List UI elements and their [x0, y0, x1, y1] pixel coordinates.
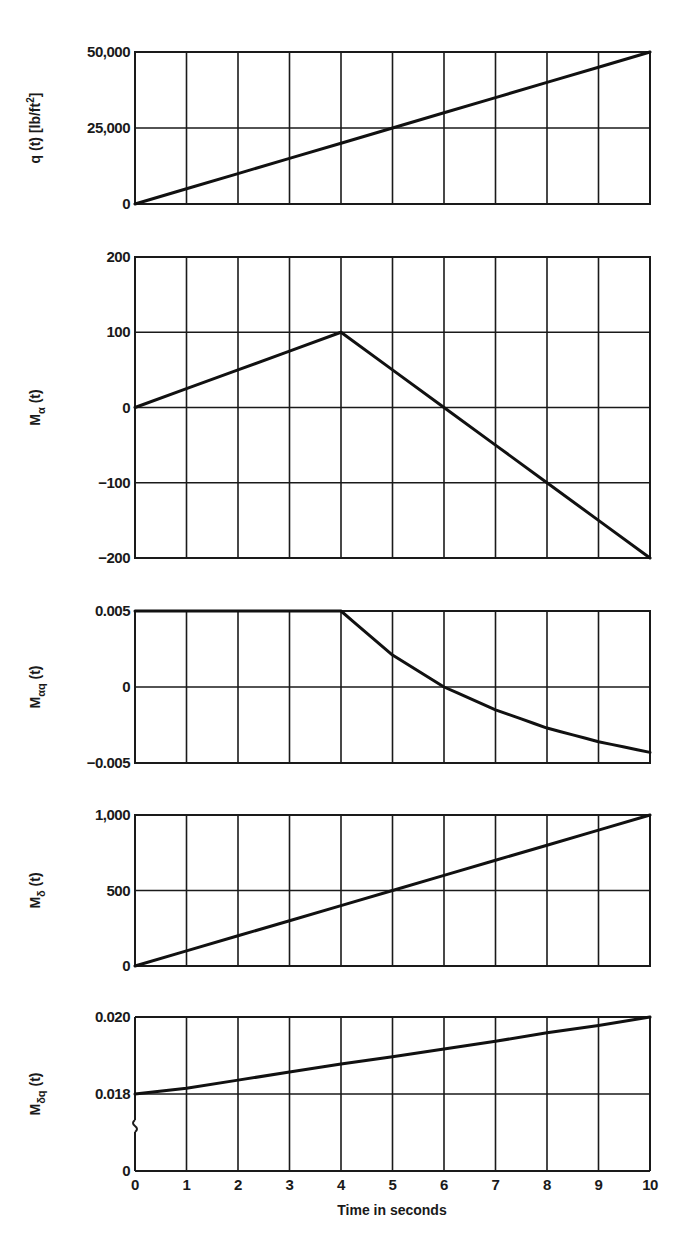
y-tick-label: 25,000	[87, 119, 130, 136]
cropped-caption	[60, 1244, 620, 1253]
panel-M_delta: 1,0005000Mδ (t)	[27, 806, 650, 974]
y-tick-label: 500	[106, 882, 130, 899]
x-tick-label: 6	[440, 1176, 448, 1193]
figure: 50,00025,0000q (t) [lb/ft2]2001000−100−2…	[0, 0, 690, 1253]
y-tick-label: 0.018	[95, 1085, 130, 1102]
x-tick-label: 1	[183, 1176, 191, 1193]
x-tick-label: 8	[543, 1176, 551, 1193]
y-tick-label: 1,000	[95, 806, 130, 823]
chart-canvas: 50,00025,0000q (t) [lb/ft2]2001000−100−2…	[0, 0, 690, 1253]
y-tick-label: 0	[122, 195, 130, 212]
y-axis-label: Mδ (t)	[27, 872, 47, 908]
x-tick-label: 10	[642, 1176, 658, 1193]
x-tick-label: 7	[492, 1176, 500, 1193]
x-tick-label: 3	[286, 1176, 294, 1193]
panel-M_alpha: 2001000−100−200Mα (t)	[27, 248, 650, 566]
y-tick-label: 0	[122, 957, 130, 974]
panel-M_delta_q: 0.0200.0180Mδq (t)	[27, 1008, 650, 1179]
x-tick-label: 2	[234, 1176, 242, 1193]
y-tick-label: −100	[98, 474, 130, 491]
x-axis-label: Time in seconds	[337, 1202, 447, 1218]
y-tick-label: 0.020	[95, 1008, 130, 1025]
panel-q: 50,00025,0000q (t) [lb/ft2]	[25, 43, 650, 212]
x-tick-label: 5	[389, 1176, 397, 1193]
y-tick-label: 0	[122, 1162, 130, 1179]
y-axis-label: Mα (t)	[27, 389, 47, 425]
axis-break-icon	[133, 1120, 137, 1132]
y-axis-label: Mαq (t)	[27, 665, 47, 708]
y-axis-label: q (t) [lb/ft2]	[25, 93, 43, 164]
y-tick-label: −200	[98, 549, 130, 566]
y-tick-label: 100	[106, 323, 130, 340]
y-tick-label: −0.005	[87, 754, 130, 771]
y-tick-label: 0.005	[95, 602, 130, 619]
y-tick-label: 50,000	[87, 43, 130, 60]
y-tick-label: 200	[106, 248, 130, 265]
y-tick-label: 0	[122, 399, 130, 416]
x-tick-label: 0	[131, 1176, 139, 1193]
x-tick-label: 4	[337, 1176, 346, 1193]
panel-M_alpha_q: 0.0050−0.005Mαq (t)	[27, 602, 650, 771]
y-axis-label: Mδq (t)	[27, 1073, 47, 1116]
y-tick-label: 0	[122, 678, 130, 695]
x-tick-label: 9	[595, 1176, 603, 1193]
